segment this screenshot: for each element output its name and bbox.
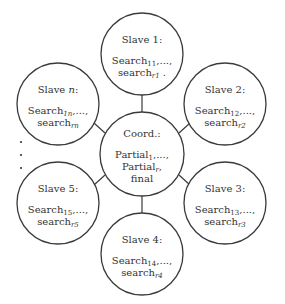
node-title: Slave 5: bbox=[18, 183, 98, 195]
node-line: Search12,..., bbox=[185, 105, 265, 117]
node-line: Search13,..., bbox=[185, 204, 265, 216]
node-slave-4: Slave 4: Search14,..., searchr4 bbox=[102, 234, 182, 279]
node-title: Slave 4: bbox=[102, 234, 182, 246]
node-line: Search14,..., bbox=[102, 255, 182, 267]
node-line: searchr2 bbox=[185, 117, 265, 129]
node-line: Search15,..., bbox=[18, 204, 98, 216]
node-line: searchr1 . bbox=[102, 67, 182, 79]
node-title: Slave 1: bbox=[102, 34, 182, 46]
node-line: Search11,..., bbox=[102, 55, 182, 67]
node-line: searchrn bbox=[18, 117, 98, 129]
node-title: Coord.: bbox=[102, 128, 182, 140]
node-line: Partial1,..., bbox=[102, 149, 182, 161]
node-line: final bbox=[102, 173, 182, 185]
node-line: searchr4 bbox=[102, 267, 182, 279]
node-line: Partialr, bbox=[102, 161, 182, 173]
node-slave-n: Slave n: Search1n,..., searchrn bbox=[18, 84, 98, 129]
node-coordinator: Coord.: Partial1,..., Partialr, final bbox=[102, 128, 182, 185]
ellipsis-dots bbox=[20, 141, 22, 169]
node-slave-2: Slave 2: Search12,..., searchr2 bbox=[185, 84, 265, 129]
node-title: Slave 2: bbox=[185, 84, 265, 96]
node-slave-3: Slave 3: Search13,..., searchr3 bbox=[185, 183, 265, 228]
node-line: searchr5 bbox=[18, 216, 98, 228]
node-title: Slave n: bbox=[18, 84, 98, 96]
node-line: Search1n,..., bbox=[18, 105, 98, 117]
node-slave-1: Slave 1: Search11,..., searchr1 . bbox=[102, 34, 182, 79]
node-line: searchr3 bbox=[185, 216, 265, 228]
node-title: Slave 3: bbox=[185, 183, 265, 195]
node-slave-5: Slave 5: Search15,..., searchr5 bbox=[18, 183, 98, 228]
